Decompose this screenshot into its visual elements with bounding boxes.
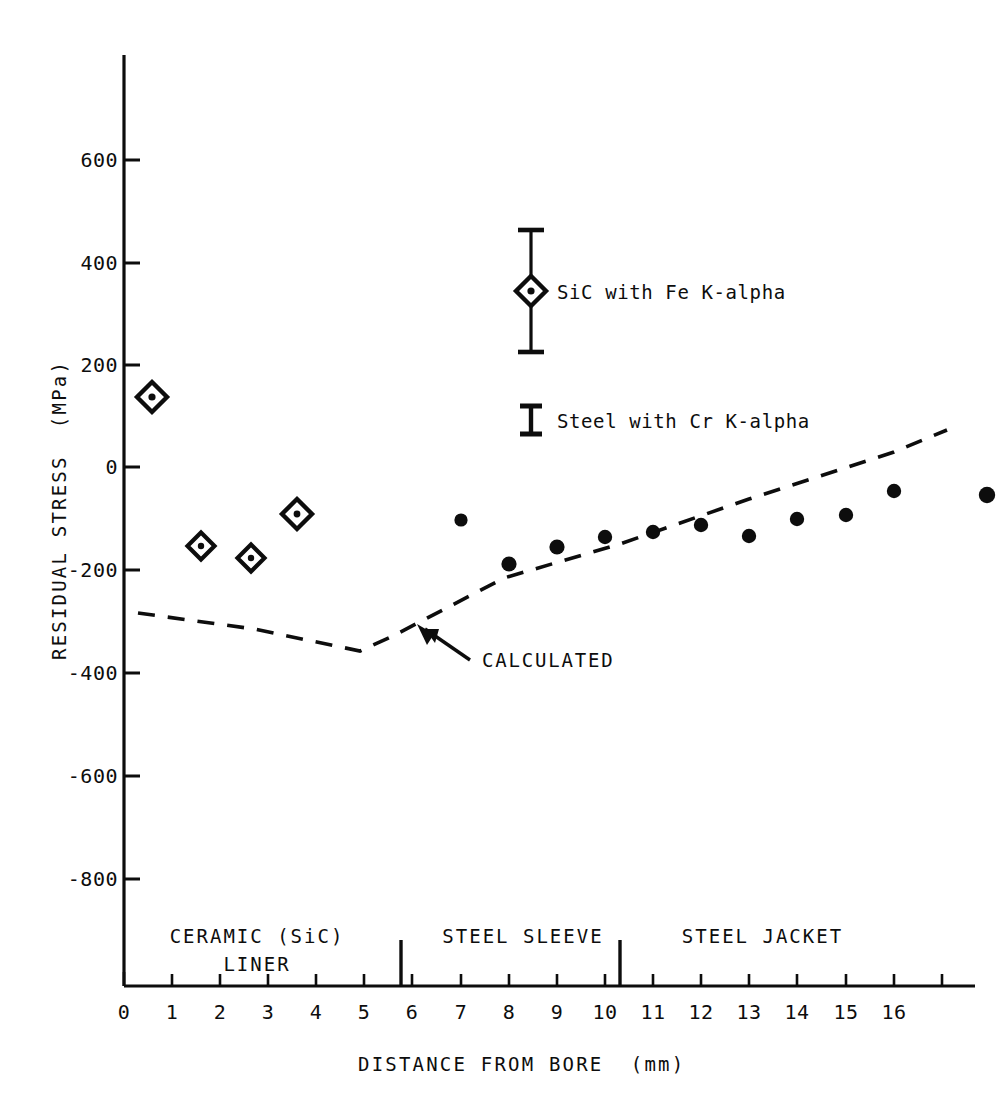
x-tick-label: 15	[820, 1000, 872, 1024]
data-point-diamond	[282, 499, 312, 529]
y-tick-label: 0	[30, 455, 118, 479]
region-label-steel-jacket: STEEL JACKET	[665, 925, 860, 947]
data-point-diamond	[238, 545, 265, 572]
data-point	[839, 508, 853, 522]
x-tick-label: 10	[579, 1000, 631, 1024]
y-tick-label: 600	[30, 148, 118, 172]
sic-data-points	[137, 382, 312, 572]
x-tick-label: 1	[152, 1000, 192, 1024]
x-tick-label: 6	[392, 1000, 432, 1024]
x-tick-label: 0	[104, 1000, 144, 1024]
y-tick-label: 400	[30, 251, 118, 275]
x-tick-label: 3	[248, 1000, 288, 1024]
data-point	[790, 512, 804, 526]
legend-marker-sic	[516, 230, 546, 352]
legend-label-sic: SiC with Fe K-alpha	[557, 281, 786, 303]
data-point	[549, 539, 564, 554]
y-tick-label: -800	[18, 867, 118, 891]
data-point	[887, 484, 901, 498]
data-point	[646, 525, 660, 539]
x-tick-label: 9	[537, 1000, 577, 1024]
calculated-annotation-label: CALCULATED	[482, 649, 614, 671]
y-tick-label: -400	[18, 661, 118, 685]
x-tick-label: 8	[489, 1000, 529, 1024]
legend-label-steel: Steel with Cr K-alpha	[557, 410, 810, 432]
y-tick-label: 200	[30, 353, 118, 377]
x-tick-label: 4	[296, 1000, 336, 1024]
data-point-diamond	[137, 382, 167, 412]
data-point	[501, 556, 516, 571]
calculated-curve	[138, 430, 947, 651]
data-point	[694, 518, 708, 532]
x-tick-label: 11	[627, 1000, 679, 1024]
data-point	[742, 529, 756, 543]
x-tick-label: 12	[675, 1000, 727, 1024]
x-tick-label: 16	[868, 1000, 920, 1024]
region-label-steel-sleeve: STEEL SLEEVE	[428, 925, 618, 947]
x-tick-label: 2	[200, 1000, 240, 1024]
x-tick-label: 5	[344, 1000, 384, 1024]
legend-markers	[516, 230, 546, 434]
data-point-diamond	[188, 533, 215, 560]
y-axis-title: RESIDUAL STRESS (MPa)	[48, 360, 70, 660]
chart-figure: 600 400 200 0 -200 -400 -600 -800 RESIDU…	[0, 0, 1000, 1106]
region-label-ceramic-line2: LINER	[162, 953, 352, 975]
calculated-annotation-arrow	[417, 624, 470, 660]
steel-data-points	[454, 484, 995, 572]
legend-marker-steel	[520, 406, 542, 434]
data-point	[979, 487, 995, 503]
data-point	[598, 530, 612, 544]
x-axis-title: DISTANCE FROM BORE (mm)	[358, 1053, 685, 1075]
y-tick-label: -600	[18, 764, 118, 788]
x-tick-label: 13	[723, 1000, 775, 1024]
x-tick-label: 7	[441, 1000, 481, 1024]
data-point	[454, 513, 467, 526]
y-tick-marks	[124, 160, 140, 879]
x-tick-label: 14	[771, 1000, 823, 1024]
region-label-ceramic-line1: CERAMIC (SiC)	[162, 925, 352, 947]
